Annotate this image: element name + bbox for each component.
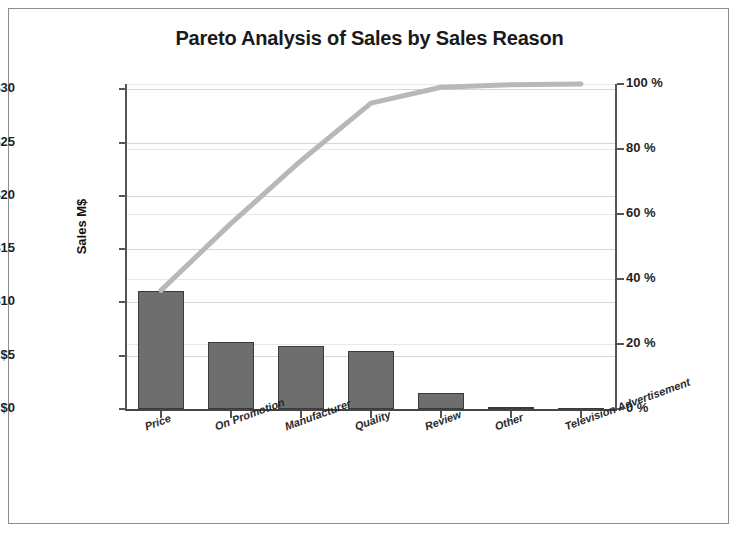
y-tick-left — [119, 301, 126, 303]
x-label-price: Price — [143, 412, 172, 432]
y-tick-left — [119, 88, 126, 90]
plot-area: $0$5$10$15$20$25$30 0 %20 %40 %60 %80 %1… — [126, 84, 616, 409]
y-tick-left — [119, 195, 126, 197]
y-tick-right — [617, 278, 624, 280]
y-tick-right — [617, 343, 624, 345]
y-tick-right — [617, 148, 624, 150]
chart-title: Pareto Analysis of Sales by Sales Reason — [9, 27, 730, 50]
y-tick-label-right: 40 % — [626, 270, 696, 285]
y-tick-label-left: $0 — [0, 400, 15, 415]
y-tick-label-right: 80 % — [626, 140, 696, 155]
y-tick-label-right: 20 % — [626, 335, 696, 350]
x-label-other: Other — [493, 411, 525, 432]
y-tick-left — [119, 408, 126, 410]
cumulative-line-series — [126, 84, 616, 410]
y-tick-left — [119, 248, 126, 250]
cumulative-percent-line — [161, 84, 581, 290]
y-tick-right — [617, 83, 624, 85]
y-tick-label-left: $30 — [0, 80, 15, 95]
x-label-review: Review — [423, 408, 463, 432]
y-tick-right — [617, 213, 624, 215]
y-axis-right-line — [615, 84, 617, 410]
pareto-chart: Pareto Analysis of Sales by Sales Reason… — [9, 9, 730, 525]
y-tick-label-left: $15 — [0, 240, 15, 255]
y-tick-label-left: $25 — [0, 134, 15, 149]
y-tick-left — [119, 142, 126, 144]
chart-frame: Pareto Analysis of Sales by Sales Reason… — [8, 8, 729, 524]
y-tick-label-left: $10 — [0, 293, 15, 308]
y-axis-left-label: Sales M$ — [74, 199, 89, 255]
y-tick-label-right: 60 % — [626, 205, 696, 220]
x-label-quality: Quality — [353, 408, 392, 432]
y-tick-label-left: $20 — [0, 187, 15, 202]
y-tick-left — [119, 355, 126, 357]
y-tick-label-left: $5 — [0, 347, 15, 362]
y-axis-left-line — [125, 84, 127, 410]
y-tick-label-right: 100 % — [626, 75, 696, 90]
